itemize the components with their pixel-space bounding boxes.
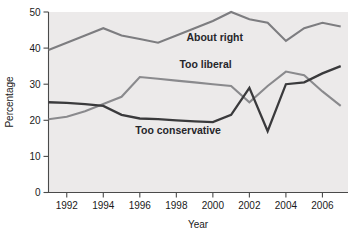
x-tick-label: 2004 (275, 200, 298, 211)
y-tick-label: 40 (29, 43, 41, 54)
x-tick-label: 1992 (56, 200, 79, 211)
x-axis-title: Year (188, 219, 209, 230)
x-tick-label: 2002 (238, 200, 261, 211)
x-tick-label: 1998 (165, 200, 188, 211)
y-tick-label: 20 (29, 115, 41, 126)
x-tick-label: 1996 (129, 200, 152, 211)
series-label: Too conservative (135, 124, 221, 136)
series-label: Too liberal (179, 58, 231, 70)
x-tick-label: 2000 (202, 200, 225, 211)
y-tick-label: 0 (35, 187, 41, 198)
y-tick-label: 30 (29, 79, 41, 90)
series-label: About right (186, 31, 243, 43)
line-chart: 01020304050 1992199419961998200020022004… (0, 0, 355, 233)
chart-canvas: 01020304050 1992199419961998200020022004… (0, 0, 355, 233)
y-tick-label: 50 (29, 7, 41, 18)
x-tick-label: 2006 (311, 200, 334, 211)
y-axis-title: Percentage (4, 76, 15, 128)
y-tick-label: 10 (29, 151, 41, 162)
x-tick-label: 1994 (92, 200, 115, 211)
